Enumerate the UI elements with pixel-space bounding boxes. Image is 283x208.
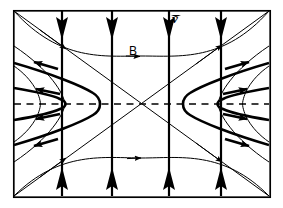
magnetic-field-label: B [129, 45, 137, 57]
field-line-bottom-arrow [127, 158, 141, 159]
figure-root: B v [0, 0, 283, 208]
field-diagram [0, 0, 283, 208]
velocity-label: v [172, 12, 178, 25]
